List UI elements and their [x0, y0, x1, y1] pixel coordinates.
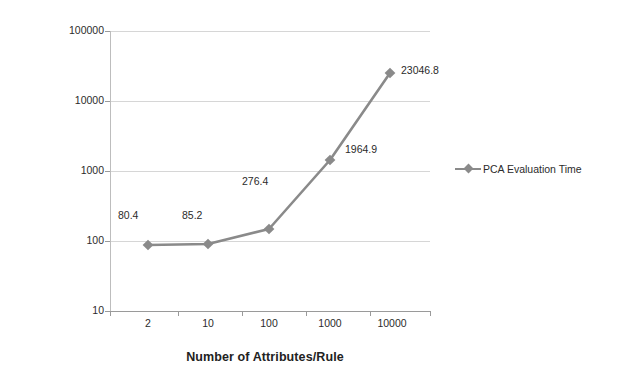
- data-label: 85.2: [182, 209, 202, 221]
- legend-label: PCA Evaluation Time: [483, 163, 582, 175]
- legend-marker-icon: [455, 163, 481, 175]
- series-line-chart: [0, 0, 623, 388]
- legend: PCA Evaluation Time: [455, 163, 582, 175]
- series-markers: [143, 68, 396, 251]
- data-label: 1964.9: [345, 143, 377, 155]
- x-axis-title: Number of Attributes/Rule: [100, 350, 430, 364]
- data-label: 80.4: [118, 209, 138, 221]
- data-label: 23046.8: [401, 64, 439, 76]
- data-marker: [143, 240, 154, 251]
- data-marker: [203, 239, 214, 250]
- data-label: 276.4: [242, 175, 268, 187]
- chart-container: Evaluation Time (in ms) 100000 10000 100…: [0, 0, 623, 388]
